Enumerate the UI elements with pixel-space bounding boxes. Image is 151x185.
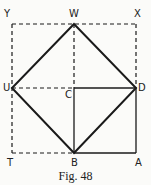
label-C: C <box>65 90 72 100</box>
label-B: B <box>71 158 78 168</box>
label-U: U <box>3 83 10 93</box>
figure-caption: Fig. 48 <box>0 169 151 184</box>
label-A: A <box>135 158 142 168</box>
label-X: X <box>134 9 141 19</box>
label-W: W <box>69 9 79 19</box>
label-Y: Y <box>4 9 10 19</box>
label-D: D <box>138 83 146 93</box>
label-T: T <box>7 158 13 168</box>
figure-48: Y W X U C D T B A Fig. 48 <box>0 0 151 185</box>
